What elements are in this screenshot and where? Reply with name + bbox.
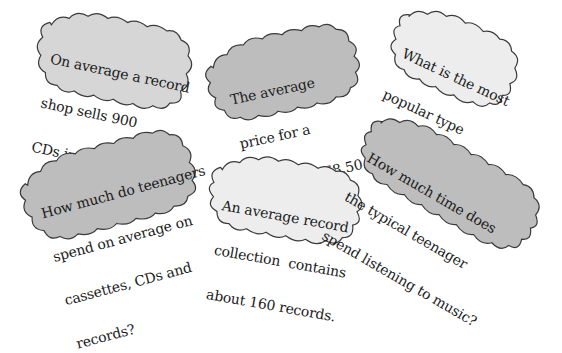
cloud-text-line: spend listening to music? — [319, 228, 479, 329]
cloud-text-line: price for a — [238, 112, 358, 152]
cloud-text-line: On average a record — [49, 51, 191, 95]
cloud-shop-sells: On average a record shop sells 900 CDs i… — [22, 0, 219, 135]
cloud-text-line: about 160 records. — [205, 287, 339, 325]
cloud-cassette-price: The average price for a cassette is £8.5… — [198, 15, 383, 138]
cloud-text-line: the typical teenager — [342, 189, 502, 290]
cloud-text-line: How much do teenagers — [40, 163, 207, 221]
cloud-text-line: How much time does — [364, 150, 524, 251]
cloud-text-line: spend on average on — [51, 207, 218, 265]
cloud-text-line: The average — [229, 68, 349, 108]
